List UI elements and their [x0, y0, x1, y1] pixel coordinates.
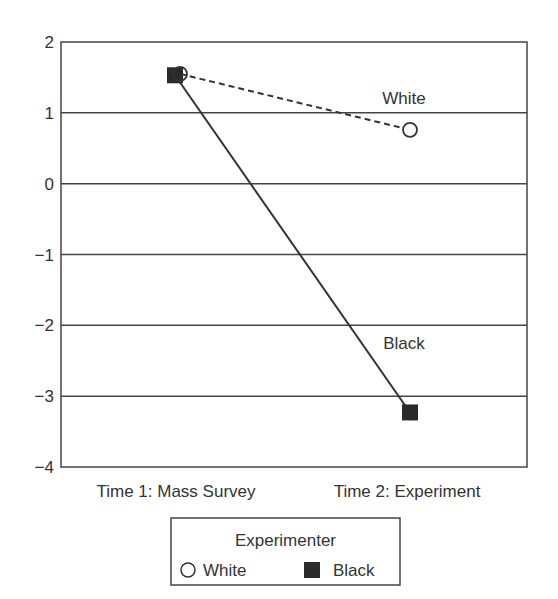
y-tick-label: −4: [35, 458, 54, 477]
chart: 210−1−2−3−4 Time 1: Mass SurveyTime 2: E…: [0, 0, 558, 599]
y-tick-label: −3: [35, 387, 54, 406]
x-tick-label: Time 1: Mass Survey: [96, 482, 256, 501]
gridlines: [61, 113, 527, 396]
x-axis-ticks: Time 1: Mass SurveyTime 2: Experiment: [96, 482, 480, 501]
y-tick-label: −1: [35, 246, 54, 265]
annotation-white: White: [382, 89, 425, 108]
y-tick-label: 1: [45, 104, 54, 123]
series-line-white: [180, 74, 410, 130]
legend-white-marker: [181, 563, 195, 577]
legend: Experimenter White Black: [171, 518, 400, 585]
annotation-black: Black: [383, 334, 425, 353]
y-tick-label: 0: [45, 175, 54, 194]
white-marker: [403, 123, 417, 137]
legend-title: Experimenter: [235, 531, 336, 550]
y-tick-label: −2: [35, 316, 54, 335]
black-marker: [402, 404, 418, 420]
series-group: [167, 67, 418, 421]
x-tick-label: Time 2: Experiment: [334, 482, 481, 501]
legend-black-marker: [304, 562, 320, 578]
series-line-black: [175, 75, 410, 412]
legend-white-label: White: [203, 561, 246, 580]
y-axis-ticks: 210−1−2−3−4: [35, 33, 54, 477]
legend-black-label: Black: [333, 561, 375, 580]
y-tick-label: 2: [45, 33, 54, 52]
